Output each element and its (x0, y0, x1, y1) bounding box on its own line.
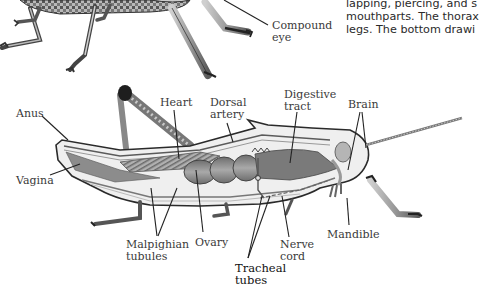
label-line: tract (284, 100, 311, 113)
label-ovary: Ovary (195, 236, 229, 249)
leader-tracheal-1 (248, 196, 262, 258)
label-line: Vagina (15, 174, 54, 187)
label-compound-eye: Compound eye (272, 19, 332, 44)
top-leg (70, 6, 95, 70)
hind-leg-knee (118, 85, 132, 101)
label-line: Ovary (195, 236, 229, 249)
label-digestive-tract: Digestive tract (284, 88, 336, 113)
leader-compound-eye (224, 0, 268, 25)
top-leg (2, 8, 40, 48)
brain-shape (335, 142, 351, 162)
label-line: Brain (348, 98, 379, 111)
label-vagina: Vagina (15, 174, 54, 187)
label-line: eye (272, 31, 291, 44)
leader-nerve-cord (282, 196, 289, 237)
label-line: Mandible (327, 228, 380, 241)
hind-leg-tibia (120, 95, 126, 148)
label-mandible: Mandible (327, 228, 380, 241)
top-grasshopper-illustration (0, 0, 268, 77)
label-nerve-cord: Nerve cord (280, 238, 314, 263)
middle-leg (286, 200, 292, 214)
leader-anus (42, 116, 68, 140)
label-malpighian-tubules: Malpighian tubules (126, 238, 189, 263)
internal-anatomy-illustration (42, 85, 462, 258)
leader-mandible (347, 198, 349, 225)
label-line: artery (210, 108, 245, 121)
label-line: Heart (160, 96, 193, 109)
leader-tracheal-2 (248, 196, 270, 258)
label-line: Anus (15, 107, 44, 120)
label-line: tubes (235, 273, 267, 284)
middle-leg (95, 202, 140, 224)
front-leg (370, 180, 418, 215)
label-line: tubules (126, 250, 168, 263)
label-brain: Brain (348, 98, 379, 111)
label-heart: Heart (160, 96, 193, 109)
label-anus: Anus (15, 107, 44, 120)
label-dorsal-artery: Dorsal artery (210, 96, 247, 121)
label-tracheal-tubes: Tracheal tubes (235, 261, 287, 284)
